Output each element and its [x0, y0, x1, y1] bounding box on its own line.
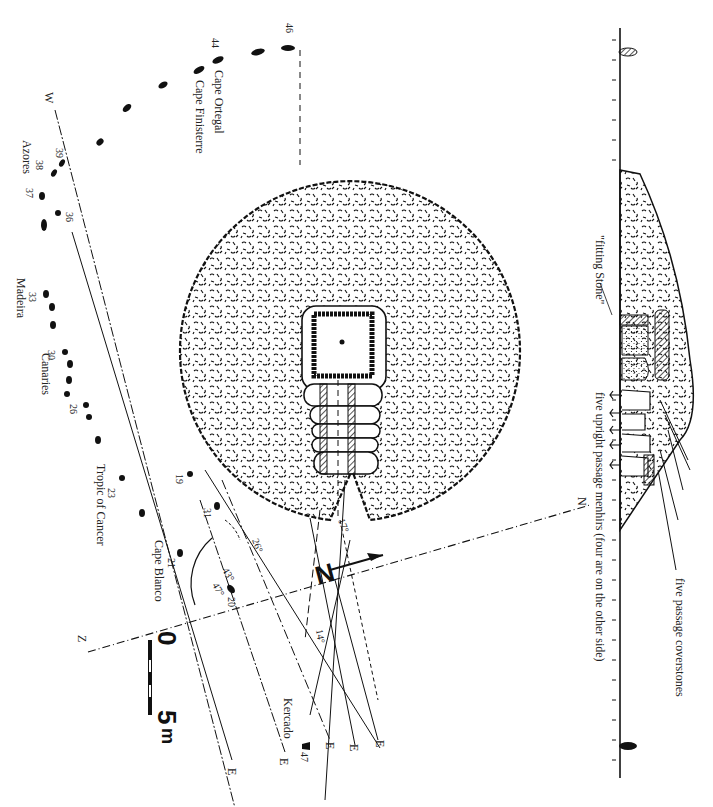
- scale-unit: m: [158, 728, 178, 744]
- svg-text:37: 37: [24, 188, 35, 198]
- angle-17: 17°: [336, 517, 351, 534]
- angle-26: 26°: [250, 537, 265, 554]
- diagram-canvas: "fitting Stone" five upright passage men…: [0, 0, 713, 807]
- svg-text:33: 33: [27, 292, 38, 302]
- kercado-number: 47: [299, 752, 310, 762]
- kercado-label: Kercado: [281, 698, 295, 739]
- east-marker-3: E: [323, 742, 337, 749]
- svg-text:38: 38: [34, 160, 45, 170]
- svg-text:23: 23: [106, 488, 117, 498]
- svg-text:39: 39: [54, 148, 65, 158]
- svg-text:46: 46: [284, 23, 295, 33]
- east-marker-1: E: [225, 768, 239, 775]
- scale-bar: 0 5 m: [148, 631, 182, 744]
- scale-zero: 0: [152, 631, 182, 645]
- kercado-diagram: "fitting Stone" five upright passage men…: [0, 0, 713, 807]
- tropic-of-cancer-label: Tropic of Cancer: [94, 464, 108, 546]
- south-marker: Z: [75, 635, 89, 642]
- svg-text:26: 26: [68, 404, 79, 414]
- svg-text:36: 36: [64, 212, 75, 222]
- north-marker: N: [575, 497, 589, 506]
- east-marker-5: E: [373, 740, 387, 747]
- svg-text:30: 30: [46, 350, 57, 360]
- west-marker: W: [42, 92, 56, 104]
- cape-blanco-label: Cape Blanco: [152, 540, 166, 602]
- cape-finisterre-label: Cape Finisterre: [193, 80, 207, 154]
- svg-text:44: 44: [210, 38, 221, 48]
- north-arrow-label: N: [312, 557, 338, 591]
- svg-text:31: 31: [202, 508, 213, 518]
- east-marker-4: E: [347, 744, 361, 751]
- coverstones-label: five passage coverstones: [673, 578, 687, 697]
- svg-text:21: 21: [166, 558, 177, 568]
- fitting-stone-label: "fitting Stone": [593, 235, 607, 305]
- north-arrow: N: [312, 553, 383, 591]
- madeira-label: Madeira: [14, 278, 28, 319]
- angle-47: 47°: [210, 581, 227, 599]
- east-marker-2: E: [277, 758, 291, 765]
- svg-text:20: 20: [226, 597, 237, 607]
- angle-14: 14°: [314, 628, 327, 644]
- upright-menhirs-label: five upright passage menhirs (four are o…: [593, 392, 607, 662]
- cairn-plan: [180, 181, 520, 520]
- cape-ortegal-label: Cape Ortegal: [212, 70, 226, 134]
- svg-text:19: 19: [174, 474, 185, 484]
- scale-five: 5: [152, 710, 182, 724]
- azores-label: Azores: [20, 140, 34, 174]
